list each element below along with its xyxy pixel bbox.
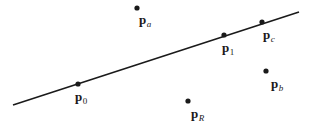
infinite-line	[13, 12, 299, 105]
point-label-base-pc: p	[263, 27, 270, 42]
point-dot-pb	[263, 68, 268, 73]
point-label-base-pa: p	[139, 12, 146, 27]
point-dots-group	[75, 5, 268, 103]
point-label-subscript-p0: 0	[83, 96, 88, 106]
point-label-subscript-pa: a	[147, 19, 152, 29]
geometry-diagram: p0p1pcpapbpR	[0, 0, 313, 131]
point-label-base-pR: p	[191, 106, 198, 121]
point-label-subscript-pc: c	[271, 34, 275, 44]
point-label-base-p0: p	[75, 89, 82, 104]
point-dot-pc	[259, 19, 264, 24]
diagram-canvas	[0, 0, 313, 131]
point-label-pR: pR	[191, 107, 204, 120]
point-dot-p1	[221, 32, 226, 37]
point-label-subscript-pb: b	[279, 83, 284, 93]
point-label-pc: pc	[263, 28, 274, 41]
point-label-base-pb: p	[271, 76, 278, 91]
point-label-subscript-pR: R	[199, 113, 205, 123]
point-label-base-p1: p	[222, 40, 229, 55]
point-label-p1: p1	[222, 41, 234, 54]
point-dot-pa	[134, 5, 139, 10]
point-dot-pR	[185, 98, 190, 103]
point-label-pb: pb	[271, 77, 283, 90]
point-dot-p0	[75, 81, 80, 86]
point-label-subscript-p1: 1	[230, 47, 235, 57]
point-label-p0: p0	[75, 90, 87, 103]
point-label-pa: pa	[139, 13, 151, 26]
